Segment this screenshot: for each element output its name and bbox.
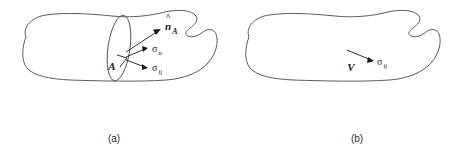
sigma-ij-symbol-a: σ xyxy=(152,62,158,73)
sigma-n-symbol: σ xyxy=(152,43,158,54)
body-outline-b xyxy=(246,10,440,81)
caption-panel-b: (b) xyxy=(351,133,363,144)
body-outline-a xyxy=(23,10,217,81)
caption-panel-a: (a) xyxy=(108,133,120,144)
figure-container: A ^ n A σ n σ ij (a) xyxy=(0,0,461,153)
sigma-ij-subscript-a: ij xyxy=(159,68,163,75)
continuum-stress-diagram: A ^ n A σ n σ ij (a) xyxy=(0,0,461,153)
label-area-a: A xyxy=(107,60,115,72)
sigma-ij-subscript-b: ij xyxy=(384,62,388,69)
sigma-ij-symbol-b: σ xyxy=(377,56,383,67)
normal-vector-subscript: A xyxy=(171,27,178,36)
panel-b: V σ ij (b) xyxy=(246,10,440,144)
panel-a: A ^ n A σ n σ ij (a) xyxy=(23,10,217,144)
normal-vector-symbol: n xyxy=(165,20,171,32)
